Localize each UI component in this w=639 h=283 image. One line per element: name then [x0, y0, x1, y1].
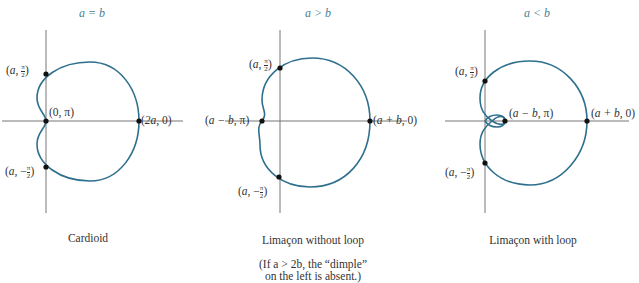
panel-title-no-loop: a > b [305, 6, 331, 21]
point-marker [43, 164, 48, 169]
label-a-minus-b-pi: (a − b, π) [205, 114, 249, 126]
label-a-minus-b-pi: (a − b, π) [509, 107, 553, 119]
caption-cardioid: Cardioid [68, 232, 108, 245]
label-a-minus-pi-over-2: (a, −π2) [5, 165, 34, 180]
point-marker [502, 118, 507, 123]
label-2a-0: (2a, 0) [141, 114, 172, 126]
note-line-2: on the left is absent.) [265, 270, 361, 283]
panel-title-cardioid: a = b [79, 6, 105, 21]
limacon-loop-axes [445, 30, 629, 213]
caption-loop: Limaçon with loop [489, 234, 577, 247]
label-a-minus-pi-over-2: (a, −π2) [238, 185, 267, 200]
point-marker [482, 160, 487, 165]
point-marker [276, 174, 281, 179]
label-a-minus-pi-over-2: (a, −π2) [445, 166, 474, 181]
fraction-pi-over-2: π2 [21, 64, 25, 79]
label-origin: (0, π) [49, 106, 74, 118]
label-a-plus-b-0: (a + b, 0) [373, 114, 417, 126]
label-a-pi-over-2: (a, π2) [455, 65, 478, 80]
label-a-plus-b-0: (a + b, 0) [591, 107, 635, 119]
limacon-loop-curve [480, 61, 587, 185]
caption-no-loop: Limaçon without loop [262, 234, 364, 247]
panel-title-loop: a < b [524, 6, 550, 21]
point-marker [43, 118, 48, 123]
point-marker [482, 78, 487, 83]
point-marker [277, 65, 282, 70]
point-marker [259, 118, 264, 123]
var-a: a [10, 64, 16, 76]
limacon-no-loop-curve [259, 58, 370, 187]
label-a-pi-over-2: (a, π2) [6, 64, 29, 79]
point-marker [43, 71, 48, 76]
point-marker [584, 118, 589, 123]
label-a-pi-over-2: (a, π2) [249, 58, 272, 73]
point-marker [367, 118, 372, 123]
